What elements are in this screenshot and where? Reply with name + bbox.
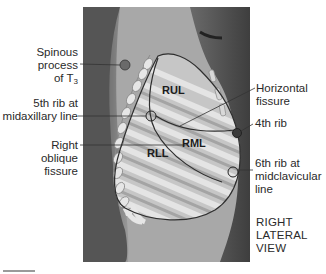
label-text: of T xyxy=(54,72,74,84)
lobe-label-rll: RLL xyxy=(147,147,168,159)
label-line: 5th rib at xyxy=(2,97,78,110)
view-label-line: VIEW xyxy=(256,242,308,255)
view-label: RIGHT LATERAL VIEW xyxy=(256,216,308,255)
label-line: midclavicular xyxy=(255,170,321,183)
label-line: Spinous xyxy=(22,46,78,59)
label-line: 4th rib xyxy=(255,117,287,130)
label-line: fissure xyxy=(256,95,308,108)
label-line: of T3 xyxy=(22,72,78,88)
subscript: 3 xyxy=(74,77,78,86)
view-label-line: LATERAL xyxy=(256,229,308,242)
label-line: Horizontal xyxy=(256,82,308,95)
label-line: fissure xyxy=(22,165,78,178)
label-line: 6th rib at xyxy=(255,157,321,170)
label-spinous-process: Spinous process of T3 xyxy=(22,46,78,88)
label-5th-rib-midaxillary: 5th rib at midaxillary line xyxy=(2,97,78,123)
label-4th-rib: 4th rib xyxy=(255,117,287,130)
view-label-line: RIGHT xyxy=(256,216,308,229)
label-right-oblique-fissure: Right oblique fissure xyxy=(22,139,78,178)
lobe-label-rul: RUL xyxy=(162,84,185,96)
label-6th-rib-midclavicular: 6th rib at midclavicular line xyxy=(255,157,321,196)
label-line: line xyxy=(255,183,321,196)
label-line: process xyxy=(22,59,78,72)
label-line: oblique xyxy=(22,152,78,165)
right-lateral-lung-diagram: Spinous process of T3 5th rib at midaxil… xyxy=(0,0,326,274)
scale-bar xyxy=(3,270,35,272)
lobe-label-rml: RML xyxy=(182,137,206,149)
label-horizontal-fissure: Horizontal fissure xyxy=(256,82,308,108)
label-line: Right xyxy=(22,139,78,152)
label-line: midaxillary line xyxy=(2,110,78,123)
